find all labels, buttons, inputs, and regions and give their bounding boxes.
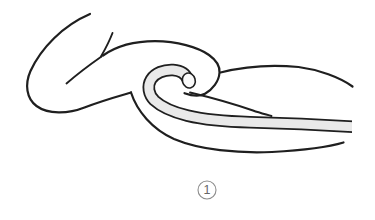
- elbow-crease-lower-line: [67, 57, 102, 84]
- forearm-top-outline: [221, 66, 353, 87]
- arm-outer-outline: [27, 14, 131, 112]
- figure-canvas: 1: [0, 0, 375, 220]
- figure-illustration: 1: [0, 0, 375, 220]
- right-edge-mask: [352, 100, 375, 150]
- caption-number: 1: [204, 183, 211, 197]
- tube: [149, 70, 353, 127]
- figure-caption: 1: [198, 181, 216, 199]
